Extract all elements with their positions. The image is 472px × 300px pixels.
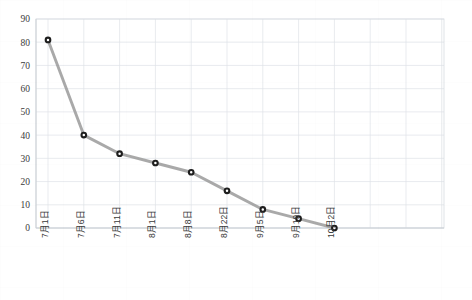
data-point-marker [117, 151, 122, 156]
x-axis-tick-label: 8月22日 [219, 206, 229, 238]
x-axis-tick-label: 8月1日 [147, 210, 157, 238]
data-point-marker [189, 170, 194, 175]
data-point-marker [46, 38, 51, 43]
y-axis-tick-label: 0 [25, 223, 30, 233]
y-axis-tick-label: 40 [21, 131, 31, 141]
y-axis-tick-label: 50 [21, 107, 31, 117]
x-axis-tick-label: 8月8日 [183, 210, 193, 238]
x-axis-tick-label: 7月1日 [40, 210, 50, 238]
y-axis-tick-label: 10 [21, 200, 31, 210]
y-axis-tick-label: 20 [21, 177, 31, 187]
y-axis-tick-label: 70 [21, 61, 31, 71]
data-point-marker [225, 189, 230, 194]
x-axis-tick-label: 10月2日 [326, 206, 336, 238]
x-axis-tick-label: 9月19日 [291, 206, 301, 238]
y-axis-tick-label: 90 [21, 14, 31, 24]
x-axis-tick-label: 9月5日 [255, 210, 265, 238]
line-chart: 01020304050607080907月1日7月6日7月11日8月1日8月8日… [0, 0, 472, 300]
y-axis-tick-label: 30 [21, 154, 31, 164]
data-point-marker [153, 161, 158, 166]
y-axis-tick-label: 80 [21, 38, 31, 48]
data-point-marker [82, 133, 87, 138]
x-axis-tick-label: 7月11日 [112, 206, 122, 238]
x-axis-tick-label: 7月6日 [76, 210, 86, 238]
chart-canvas: 01020304050607080907月1日7月6日7月11日8月1日8月8日… [0, 0, 472, 300]
y-axis-tick-label: 60 [21, 84, 31, 94]
